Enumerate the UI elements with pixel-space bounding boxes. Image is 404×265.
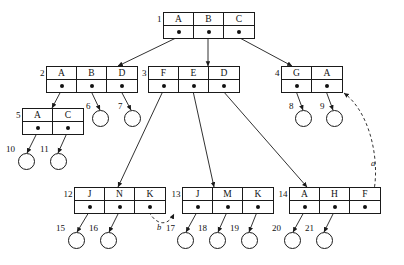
leaf-circle-21[interactable] [316, 232, 333, 249]
node-1-pointer-1 [194, 26, 223, 38]
leaf-circle-6[interactable] [92, 110, 109, 127]
leaf-circle-16[interactable] [100, 232, 117, 249]
node-12[interactable]: 12JNK [74, 187, 166, 214]
node-12-pointer-2 [135, 201, 165, 213]
node-2-cell-0[interactable]: A [47, 67, 77, 92]
edge-2-A-to-5 [52, 91, 61, 108]
node-4-cell-1[interactable]: A [312, 67, 342, 92]
node-1-pointer-2 [224, 26, 254, 38]
leaf-label-19: 19 [230, 223, 239, 233]
edge-3-F-to-12 [118, 91, 163, 187]
leaf-circle-18[interactable] [209, 232, 226, 249]
node-14-key-1: H [320, 188, 349, 201]
leaf-circle-8[interactable] [295, 110, 312, 127]
node-label-5: 5 [16, 110, 21, 121]
node-14[interactable]: 14AHF [289, 187, 381, 214]
leaf-circle-10[interactable] [18, 153, 35, 170]
edge-5-A-to-10 [27, 133, 37, 153]
node-2-pointer-0 [47, 80, 76, 92]
leaf-circle-19[interactable] [241, 232, 258, 249]
node-13-cell-0[interactable]: J [183, 188, 213, 213]
node-12-key-2: K [135, 188, 165, 201]
leaf-circle-7[interactable] [124, 110, 141, 127]
node-14-key-0: A [290, 188, 319, 201]
node-14-cell-1[interactable]: H [320, 188, 350, 213]
node-2-cell-2[interactable]: D [107, 67, 137, 92]
dashed-edge-label-a: a [371, 158, 375, 168]
leaf-circle-9[interactable] [326, 110, 343, 127]
node-3-cell-2[interactable]: D [209, 67, 239, 92]
node-12-cell-1[interactable]: N [105, 188, 135, 213]
node-3-pointer-0 [149, 80, 178, 92]
leaf-label-20: 20 [272, 223, 281, 233]
node-1-cell-0[interactable]: A [164, 13, 194, 38]
node-3[interactable]: 3FED [148, 66, 240, 93]
node-14-cell-0[interactable]: A [290, 188, 320, 213]
node-5-cell-1[interactable]: C [53, 109, 83, 134]
dashed-edge-label-b: b [157, 222, 161, 232]
node-1-key-2: C [224, 13, 254, 26]
node-5-pointer-1 [53, 122, 83, 134]
node-13-cell-1[interactable]: M [213, 188, 243, 213]
edge-2-B-to-6 [91, 91, 100, 110]
edge-4-G-to-8 [296, 91, 303, 110]
node-12-cell-2[interactable]: K [135, 188, 165, 213]
node-3-key-2: D [209, 67, 239, 80]
node-14-cell-2[interactable]: F [350, 188, 380, 213]
node-4-pointer-0 [282, 80, 311, 92]
node-label-13: 13 [172, 189, 181, 200]
edge-1-C-to-4 [238, 37, 292, 66]
leaf-label-11: 11 [40, 144, 49, 154]
node-5[interactable]: 5AC [22, 108, 84, 135]
node-3-pointer-2 [209, 80, 239, 92]
node-13[interactable]: 13JMK [182, 187, 274, 214]
node-2-cell-1[interactable]: B [77, 67, 107, 92]
node-3-cell-0[interactable]: F [149, 67, 179, 92]
node-13-pointer-0 [183, 201, 212, 213]
leaf-label-15: 15 [56, 223, 65, 233]
leaf-label-10: 10 [6, 144, 15, 154]
node-12-cell-0[interactable]: J [75, 188, 105, 213]
edge-12-N-to-16 [109, 212, 119, 232]
node-12-key-1: N [105, 188, 134, 201]
edge-13-K-to-19 [249, 212, 257, 232]
node-5-pointer-0 [23, 122, 52, 134]
leaf-circle-11[interactable] [50, 153, 67, 170]
node-2-pointer-1 [77, 80, 106, 92]
leaf-circle-17[interactable] [177, 232, 194, 249]
edge-5-C-to-11 [58, 133, 67, 153]
node-1[interactable]: 1ABC [163, 12, 255, 39]
leaf-label-8: 8 [289, 101, 294, 111]
node-1-pointer-0 [164, 26, 193, 38]
node-13-cell-2[interactable]: K [243, 188, 273, 213]
node-2[interactable]: 2ABD [46, 66, 138, 93]
node-4[interactable]: 4GA [281, 66, 343, 93]
node-4-key-1: A [312, 67, 342, 80]
node-3-cell-1[interactable]: E [179, 67, 209, 92]
node-1-cell-2[interactable]: C [224, 13, 254, 38]
leaf-circle-20[interactable] [284, 232, 301, 249]
node-5-cell-0[interactable]: A [23, 109, 53, 134]
node-13-pointer-1 [213, 201, 242, 213]
node-4-cell-0[interactable]: G [282, 67, 312, 92]
node-3-key-0: F [149, 67, 178, 80]
node-2-key-2: D [107, 67, 137, 80]
edge-3-E-to-13 [193, 91, 214, 187]
node-1-key-1: B [194, 13, 223, 26]
node-12-pointer-1 [105, 201, 134, 213]
leaf-label-9: 9 [320, 101, 325, 111]
edge-12-J-to-15 [77, 212, 89, 232]
node-2-key-1: B [77, 67, 106, 80]
node-3-key-1: E [179, 67, 208, 80]
leaf-label-16: 16 [89, 223, 98, 233]
tree-diagram-canvas: 1ABC2ABD3FED4GA5AC12JNK13JMK14AHF 678910… [0, 0, 404, 265]
node-label-2: 2 [40, 68, 45, 79]
node-14-pointer-2 [350, 201, 380, 213]
node-1-cell-1[interactable]: B [194, 13, 224, 38]
node-5-key-0: A [23, 109, 52, 122]
edge-14-H-to-21 [324, 212, 334, 232]
edge-1-A-to-2 [118, 37, 178, 66]
leaf-circle-15[interactable] [68, 232, 85, 249]
edge-13-J-to-17 [186, 212, 197, 232]
leaf-label-18: 18 [198, 223, 207, 233]
